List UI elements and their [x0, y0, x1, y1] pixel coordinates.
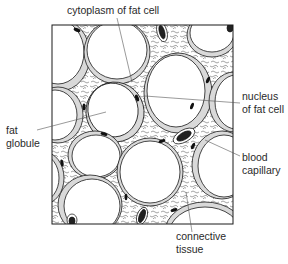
label-nucleus-of-fat-cell: nucleus of fat cell — [242, 90, 284, 115]
label-text: globule — [6, 137, 40, 150]
label-text: tissue — [176, 243, 226, 256]
adipose-tissue-diagram — [0, 0, 288, 264]
label-text: blood — [242, 151, 281, 164]
label-blood-capillary: blood capillary — [242, 151, 281, 176]
label-text: fat — [6, 124, 40, 137]
label-text: connective — [176, 230, 226, 243]
label-fat-globule: fat globule — [6, 124, 40, 149]
connective-tissue-region — [24, 13, 259, 262]
label-text: capillary — [242, 164, 281, 177]
label-text: nucleus — [242, 90, 284, 103]
label-text: of fat cell — [242, 103, 284, 116]
label-cytoplasm-of-fat-cell: cytoplasm of fat cell — [67, 4, 159, 17]
label-text: cytoplasm of fat cell — [67, 4, 159, 16]
label-connective-tissue: connective tissue — [176, 230, 226, 255]
